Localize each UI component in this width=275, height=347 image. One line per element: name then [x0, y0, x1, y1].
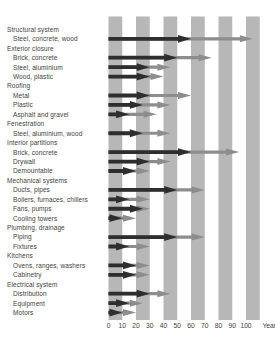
decade-band — [219, 17, 233, 321]
x-tick-label: 100 — [240, 322, 251, 330]
year-unit-label: Year — [262, 322, 275, 330]
item-label: Ovens, ranges, washers — [13, 261, 85, 270]
item-label: Ducts, pipes — [13, 185, 50, 194]
x-tick-label: 80 — [215, 322, 222, 330]
decade-band — [164, 17, 178, 321]
x-tick-label: 30 — [146, 322, 153, 330]
item-label: Metal — [13, 91, 29, 100]
x-tick-label: 60 — [187, 322, 194, 330]
item-label: Brick, concrete — [13, 148, 58, 157]
x-tick-label: 20 — [132, 322, 139, 330]
item-label: Piping — [13, 232, 32, 241]
item-label: Distribution — [13, 289, 47, 298]
item-label: Brick, concrete — [13, 53, 58, 62]
x-tick-label: 50 — [174, 322, 181, 330]
category-label: Structural system — [7, 25, 59, 34]
category-label: Plumbing, drainage — [7, 223, 65, 232]
x-tick-label: 10 — [119, 322, 126, 330]
category-label: Roofing — [7, 81, 30, 90]
x-tick-label: 70 — [201, 322, 208, 330]
item-label: Steel, concrete, wood — [13, 34, 78, 43]
decade-band — [246, 17, 260, 321]
category-label: Kitchens — [7, 251, 33, 260]
item-label: Steel, aluminium — [13, 63, 63, 72]
item-label: Wood, plastic — [13, 72, 53, 81]
item-label: Demountable — [13, 166, 53, 175]
item-label: Fans, pumps — [13, 204, 52, 213]
service-life-chart: Structural systemSteel, concrete, woodEx… — [0, 0, 275, 347]
item-label: Plastic — [13, 100, 33, 109]
item-label: Cabinetry — [13, 270, 42, 279]
x-tick-label: 90 — [229, 322, 236, 330]
item-label: Motors — [13, 308, 33, 317]
category-label: Interior partitions — [7, 138, 57, 147]
category-label: Fenestration — [7, 119, 44, 128]
item-label: Steel, aluminium, wood — [13, 129, 82, 138]
item-label: Cooling towers — [13, 214, 57, 223]
item-label: Boilers, furnaces, chillers — [13, 195, 88, 204]
item-label: Drywall — [13, 157, 35, 166]
item-label: Equipment — [13, 299, 45, 308]
decade-band — [191, 17, 205, 321]
item-label: Fixtures — [13, 242, 37, 251]
item-label: Asphalt and gravel — [13, 110, 69, 119]
category-label: Mechanical systems — [7, 176, 67, 185]
category-label: Electrical system — [7, 280, 57, 289]
x-tick-label: 0 — [107, 322, 111, 330]
x-tick-label: 40 — [160, 322, 167, 330]
category-label: Exterior closure — [7, 44, 54, 53]
